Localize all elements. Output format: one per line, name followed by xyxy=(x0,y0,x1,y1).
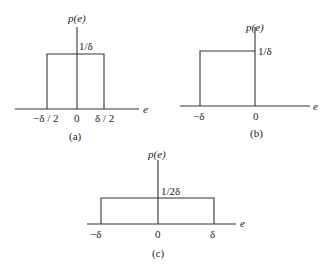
tick-label-zero: 0 xyxy=(74,112,80,124)
tick-label-right: δ xyxy=(210,228,215,240)
y-axis-label: p(e) xyxy=(67,12,86,25)
panel-b: p(e) e 1/δ −δ 0 (b) xyxy=(180,21,318,140)
height-label: 1/δ xyxy=(79,40,93,52)
tick-label-left: −δ / 2 xyxy=(33,112,58,124)
height-label: 1/δ xyxy=(258,45,272,57)
x-axis-label: e xyxy=(240,217,245,229)
caption: (a) xyxy=(69,130,82,143)
tick-label-zero: 0 xyxy=(253,110,259,122)
tick-label-right: δ / 2 xyxy=(95,112,114,124)
x-axis-label: e xyxy=(143,103,148,115)
pdf-rectangle xyxy=(47,54,104,109)
y-axis-label: p(e) xyxy=(147,148,166,161)
tick-label-zero: 0 xyxy=(155,228,161,240)
panel-a: p(e) e 1/δ −δ / 2 0 δ / 2 (a) xyxy=(15,12,148,143)
panel-c: p(e) e 1/2δ −δ 0 δ (c) xyxy=(87,148,245,260)
x-axis-label: e xyxy=(313,100,318,112)
caption: (c) xyxy=(152,247,165,260)
tick-label-left: −δ xyxy=(193,110,204,122)
figure-canvas: p(e) e 1/δ −δ / 2 0 δ / 2 (a) p(e) e 1/δ… xyxy=(0,0,329,268)
y-axis-label: p(e) xyxy=(245,21,264,34)
pdf-rectangle xyxy=(200,51,255,106)
height-label: 1/2δ xyxy=(161,185,180,197)
caption: (b) xyxy=(250,127,263,140)
tick-label-left: −δ xyxy=(90,228,101,240)
